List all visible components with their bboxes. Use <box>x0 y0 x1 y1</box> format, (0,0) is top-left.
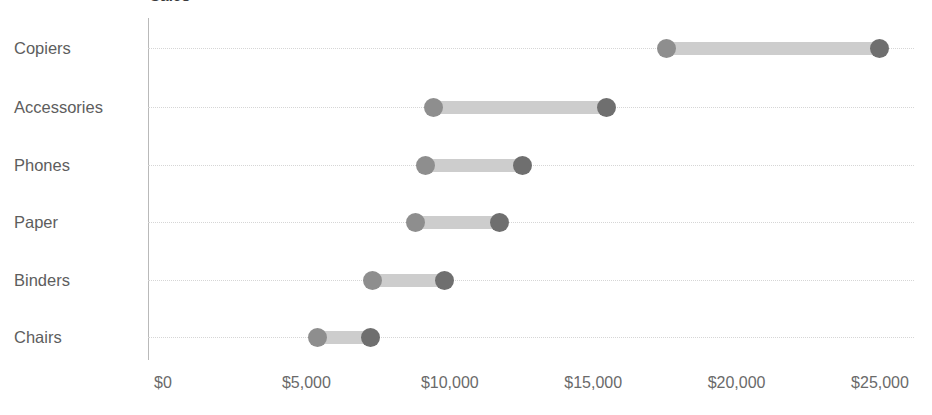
gridline <box>148 280 914 281</box>
start-dot[interactable] <box>406 213 425 232</box>
category-label-phones: Phones <box>14 156 140 175</box>
range-bar <box>433 101 607 114</box>
dumbbell-phones[interactable] <box>414 155 534 175</box>
dumbbell-binders[interactable] <box>360 270 457 290</box>
x-tick-label: $5,000 <box>282 374 331 392</box>
category-label-copiers: Copiers <box>14 39 140 58</box>
start-dot[interactable] <box>308 328 327 347</box>
dumbbell-copiers[interactable] <box>655 38 892 58</box>
start-dot[interactable] <box>416 156 435 175</box>
x-tick-label: $20,000 <box>708 374 766 392</box>
end-dot[interactable] <box>361 328 380 347</box>
x-axis: $0$5,000$10,000$15,000$20,000$25,000 <box>0 360 932 415</box>
end-dot[interactable] <box>513 156 532 175</box>
dumbbell-paper[interactable] <box>403 212 512 232</box>
x-tick-label: $0 <box>154 374 172 392</box>
range-bar <box>426 159 522 172</box>
end-dot[interactable] <box>870 39 889 58</box>
start-dot[interactable] <box>363 271 382 290</box>
dumbbell-accessories[interactable] <box>421 97 619 117</box>
y-axis-line <box>148 18 149 360</box>
x-tick-label: $10,000 <box>421 374 479 392</box>
category-label-binders: Binders <box>14 271 140 290</box>
gridline <box>148 337 914 338</box>
x-tick-label: $25,000 <box>851 374 909 392</box>
category-label-accessories: Accessories <box>14 98 140 117</box>
category-label-paper: Paper <box>14 213 140 232</box>
gridline <box>148 222 914 223</box>
start-dot[interactable] <box>424 98 443 117</box>
end-dot[interactable] <box>490 213 509 232</box>
range-bar <box>372 274 445 287</box>
end-dot[interactable] <box>435 271 454 290</box>
category-label-chairs: Chairs <box>14 328 140 347</box>
end-dot[interactable] <box>597 98 616 117</box>
start-dot[interactable] <box>657 39 676 58</box>
plot-area: CopiersAccessoriesPhonesPaperBindersChai… <box>0 0 932 360</box>
dumbbell-chart: Sales CopiersAccessoriesPhonesPaperBinde… <box>0 0 932 415</box>
range-bar <box>415 216 500 229</box>
range-bar <box>667 42 880 55</box>
dumbbell-chairs[interactable] <box>305 327 382 347</box>
x-tick-label: $15,000 <box>564 374 622 392</box>
